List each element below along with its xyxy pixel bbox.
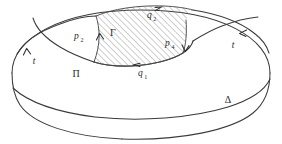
arrow-t-left-icon [23, 48, 30, 55]
label-path-p2-sub: 2 [80, 37, 83, 43]
label-path-q1-base: q [138, 68, 143, 78]
label-path-t-left: t [33, 56, 36, 66]
label-path-q2-base: q [147, 10, 152, 20]
label-path-p4-base: p [164, 38, 170, 48]
torus-lower-band [13, 79, 270, 119]
label-path-q1-sub: 1 [144, 74, 147, 80]
label-path-p4-sub: 4 [171, 44, 174, 50]
label-path-q2-sub: 2 [153, 16, 156, 22]
label-region-gamma: Γ [110, 27, 116, 38]
label-path-t-right: t [232, 40, 235, 50]
torus-diagram-canvas: Γ Π Δ p 2 p 4 q 1 q 2 t t [0, 0, 282, 144]
label-region-pi: Π [72, 68, 79, 79]
torus-diagram-figure: Γ Π Δ p 2 p 4 q 1 q 2 t t [0, 0, 282, 144]
torus-outer-lower-left [12, 73, 122, 139]
label-region-delta: Δ [225, 94, 232, 105]
torus-inner-rim-left [17, 16, 96, 54]
torus-outer-lower-right [122, 73, 270, 139]
label-path-p2-base: p [73, 31, 79, 41]
label-path-q1: q 1 [138, 68, 147, 80]
inner-hole-left-arc [33, 18, 94, 62]
torus-band-divider-curve [13, 79, 270, 119]
label-path-p2: p 2 [73, 31, 83, 43]
